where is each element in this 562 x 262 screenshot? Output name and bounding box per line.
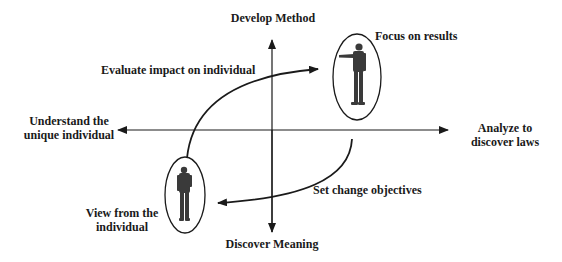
- evaluate-impact-label: Evaluate impact on individual: [101, 63, 255, 77]
- axis-label-right-line1: Analyze to: [460, 121, 550, 135]
- axis-label-left-line1: Understand the: [18, 114, 120, 128]
- set-objectives-label: Set change objectives: [313, 183, 422, 197]
- view-individual-label: View from the individual: [82, 206, 162, 234]
- axis-label-left-line2: unique individual: [18, 128, 120, 142]
- evaluate-impact-arrow: [187, 69, 318, 158]
- axis-label-right: Analyze to discover laws: [460, 121, 550, 149]
- focus-results-figure: [333, 34, 381, 120]
- axis-label-top: Develop Method: [228, 11, 318, 25]
- quadrant-diagram: Develop Method Discover Meaning Understa…: [0, 0, 562, 262]
- view-individual-line1: View from the: [82, 206, 162, 220]
- view-individual-line2: individual: [82, 220, 162, 234]
- view-individual-figure: [165, 157, 205, 233]
- focus-results-label: Focus on results: [375, 29, 457, 43]
- axis-label-left: Understand the unique individual: [18, 114, 120, 142]
- axis-label-bottom: Discover Meaning: [222, 237, 322, 251]
- axis-label-right-line2: discover laws: [460, 135, 550, 149]
